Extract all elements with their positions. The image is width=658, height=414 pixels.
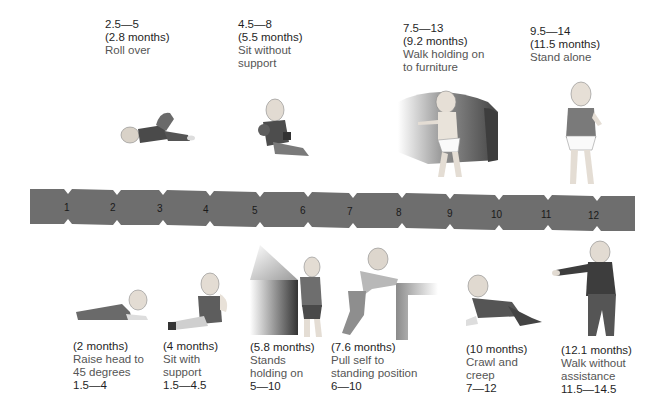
toddler-walking-illustration — [552, 240, 632, 340]
baby-pulling-to-stand-illustration — [338, 245, 438, 340]
baby-sitting-supported-illustration — [168, 270, 236, 332]
average-text: (2 months) — [73, 340, 153, 353]
average-text: (10 months) — [466, 343, 536, 356]
milestone-walk-without-assistance: (12.1 months) Walk without assistance 11… — [561, 344, 641, 396]
month-tick-8: 8 — [396, 207, 402, 218]
month-tick-9: 9 — [447, 208, 453, 219]
month-tick-5: 5 — [252, 205, 258, 216]
month-tick-6: 6 — [300, 205, 306, 216]
range-text: 11.5—14.5 — [561, 383, 641, 396]
month-tick-2: 2 — [110, 202, 116, 213]
average-text: (5.8 months) — [250, 341, 320, 354]
average-text: (12.1 months) — [561, 344, 641, 357]
month-tick-3: 3 — [157, 203, 163, 214]
description-text: Walk without assistance — [561, 357, 641, 383]
baby-standing-holding-box-illustration — [250, 245, 330, 340]
month-tick-7: 7 — [347, 206, 353, 217]
milestone-pull-to-stand: (7.6 months) Pull self to standing posit… — [331, 341, 423, 393]
description-text: Sit with support — [163, 353, 233, 379]
description-text: Crawl and creep — [466, 356, 536, 382]
milestone-stands-holding-on: (5.8 months) Stands holding on 5—10 — [250, 341, 320, 393]
milestone-raise-head: (2 months) Raise head to 45 degrees 1.5—… — [73, 340, 153, 392]
average-text: (4 months) — [163, 340, 233, 353]
description-text: Pull self to standing position — [331, 354, 423, 380]
milestone-crawl-and-creep: (10 months) Crawl and creep 7—12 — [466, 343, 536, 395]
month-tick-12: 12 — [588, 210, 599, 221]
range-text: 5—10 — [250, 380, 320, 393]
range-text: 1.5—4.5 — [163, 379, 233, 392]
month-tick-10: 10 — [491, 209, 502, 220]
average-text: (7.6 months) — [331, 341, 423, 354]
description-text: Raise head to 45 degrees — [73, 353, 153, 379]
month-tick-4: 4 — [203, 204, 209, 215]
milestone-sit-with-support: (4 months) Sit with support 1.5—4.5 — [163, 340, 233, 392]
range-text: 7—12 — [466, 382, 536, 395]
description-text: Stands holding on — [250, 354, 320, 380]
baby-crawling-illustration — [462, 272, 548, 332]
month-tick-11: 11 — [541, 209, 551, 220]
range-text: 6—10 — [331, 380, 423, 393]
range-text: 1.5—4 — [73, 379, 153, 392]
baby-raising-head-illustration — [72, 284, 152, 324]
month-tick-1: 1 — [64, 202, 70, 213]
